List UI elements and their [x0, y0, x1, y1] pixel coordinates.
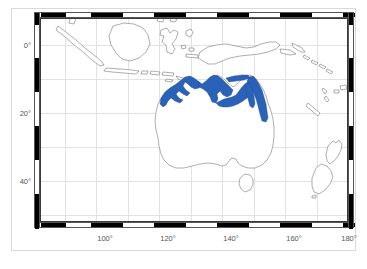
neatline-right — [348, 12, 354, 228]
x-tick-label-140: 140° — [223, 234, 239, 243]
neatline-segment — [280, 223, 312, 227]
neatline-segment — [217, 13, 249, 17]
neatline-segment — [35, 126, 39, 160]
neatline-left — [34, 12, 40, 228]
neatline-bottom — [34, 222, 354, 228]
neatline-segment — [217, 223, 249, 227]
x-tick-label-100: 100° — [97, 234, 113, 243]
neatline-segment — [349, 194, 353, 229]
y-tick-label-40: 40° — [13, 177, 31, 186]
neatline-segment — [91, 223, 123, 227]
neatline-top — [34, 12, 354, 18]
map-plot-area — [40, 18, 348, 222]
y-tick-label-20: 20° — [13, 109, 31, 118]
y-tick-label-0: 0° — [13, 41, 31, 50]
neatline-segment — [349, 13, 353, 25]
map-figure: 100° 120° 140° 160° 180° 0° 20° 40° — [0, 0, 367, 269]
neatline-segment — [349, 126, 353, 160]
neatline-segment — [349, 58, 353, 92]
neatline-segment — [35, 13, 39, 25]
neatline-segment — [91, 13, 123, 17]
neatline-segment — [280, 13, 312, 17]
neatline-segment — [41, 13, 66, 17]
neatline-segment — [154, 223, 186, 227]
x-tick-label-120: 120° — [160, 234, 176, 243]
neatline-segment — [154, 13, 186, 17]
neatline-segment — [35, 194, 39, 229]
x-tick-label-180: 180° — [341, 234, 357, 243]
neatline-segment — [41, 223, 66, 227]
x-tick-label-160: 160° — [286, 234, 302, 243]
neatline-segment — [35, 58, 39, 92]
distribution-range-layer — [40, 18, 348, 222]
